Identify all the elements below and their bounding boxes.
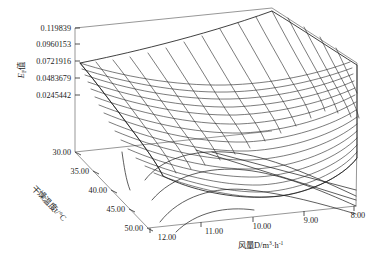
y-axis-title-text: 风量D/m3·h-1 — [238, 240, 284, 250]
x-tick-label-0: 30.00 — [53, 148, 71, 157]
x-tick-label-4: 50.00 — [125, 224, 143, 233]
z-tick-label-3: 0.0483679 — [36, 74, 71, 83]
y-tick-label-4: 8.00 — [351, 211, 365, 220]
y-tick-label-0: 12.00 — [158, 233, 176, 242]
y-tick-label-2: 10.00 — [253, 222, 271, 231]
z-tick-label-1: 0.0960153 — [36, 40, 71, 49]
x-tick-label-3: 45.00 — [107, 205, 125, 214]
y-tick-label-1: 11.00 — [205, 227, 223, 236]
z-tick-label-2: 0.0721916 — [36, 57, 71, 66]
y-axis-title: 风量D/m3·h-1 — [238, 240, 284, 250]
z-axis-title: EF值 — [16, 61, 27, 79]
x-tick-label-1: 35.00 — [71, 167, 89, 176]
x-tick-label-2: 40.00 — [89, 186, 107, 195]
y-tick-label-3: 9.00 — [304, 216, 318, 225]
z-axis-title-text: EF值 — [16, 61, 27, 79]
z-tick-label-4: 0.0245442 — [36, 91, 71, 100]
response-surface-figure: 0.119839 0.0960153 0.0721916 0.0483679 0… — [0, 0, 375, 256]
surface-plot-svg: 0.119839 0.0960153 0.0721916 0.0483679 0… — [0, 0, 375, 256]
z-tick-label-0: 0.119839 — [41, 24, 71, 33]
